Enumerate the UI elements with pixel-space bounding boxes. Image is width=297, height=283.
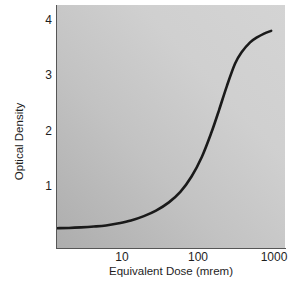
curve-canvas xyxy=(57,5,285,248)
y-tick-label-2: 2 xyxy=(32,125,52,137)
x-tick-label-1000: 1000 xyxy=(251,251,297,263)
characteristic-curve-line xyxy=(57,31,271,228)
plot-area xyxy=(57,5,285,248)
x-axis-title: Equivalent Dose (mrem) xyxy=(57,265,285,278)
x-axis-line xyxy=(56,248,286,249)
y-axis-tick-labels: 4 3 2 1 xyxy=(30,0,52,283)
y-axis-title: Optical Density xyxy=(10,0,28,283)
y-axis-line xyxy=(56,5,57,249)
y-tick-label-1: 1 xyxy=(32,180,52,192)
y-tick-label-4: 4 xyxy=(32,14,52,26)
x-tick-label-10: 10 xyxy=(99,251,145,263)
y-tick-label-3: 3 xyxy=(32,69,52,81)
x-tick-label-100: 100 xyxy=(175,251,221,263)
chart-figure: 4 3 2 1 10 100 1000 Equivalent Dose (mre… xyxy=(0,0,297,283)
